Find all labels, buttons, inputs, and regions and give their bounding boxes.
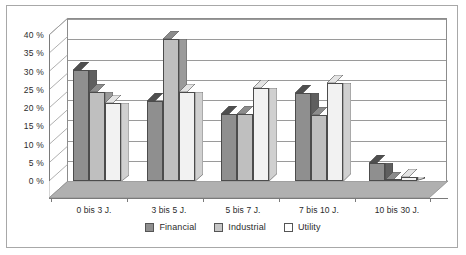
bar-industrial-0 [89,92,105,181]
bar-face [369,163,385,181]
bar-top [311,107,327,115]
tick-connectors [49,18,68,198]
bar-top [163,31,179,39]
bar-top [401,169,417,177]
bar-industrial-3 [311,115,327,181]
bar-top [369,155,385,163]
bar-side [195,92,203,181]
y-tick-label-40: 40 % [24,30,44,40]
bar-face [147,101,163,181]
bar-face [237,114,253,182]
bar-face [179,92,195,181]
bar-financial-4 [369,163,385,181]
bar-face [401,177,417,181]
bar-financial-2 [221,114,237,182]
bar-utility-2 [253,88,269,181]
y-tick-label-20: 20 % [24,103,44,113]
bar-top [73,62,89,70]
bar-face [253,88,269,181]
x-tick-5 [430,198,431,202]
legend-swatch-financial-icon [145,223,154,232]
bar-face [89,92,105,181]
bar-top [295,85,311,93]
x-tick-1 [127,198,128,202]
bar-financial-3 [295,93,311,181]
bar-financial-1 [147,101,163,181]
bar-face [163,39,179,181]
bar-industrial-2 [237,114,253,182]
legend-label-financial: Financial [159,222,196,232]
legend-item-industrial[interactable]: Industrial [214,222,266,232]
x-tick-4 [355,198,356,202]
x-tick-label-0: 0 bis 3 J. [76,205,111,215]
legend-label-utility: Utility [298,222,321,232]
bar-top [253,80,269,88]
bar-face [73,70,89,181]
bar-side [417,177,425,181]
bar-face [221,114,237,182]
legend-swatch-industrial-icon [214,223,223,232]
bar-side [269,88,277,181]
chart-frame: 40 % 35 % 30 % 25 % 20 % 15 % 10 % 5 % 0… [6,5,458,248]
bar-face [385,179,401,181]
y-tick-label-25: 25 % [24,85,44,95]
bar-industrial-1 [163,39,179,181]
chart-legend: Financial Industrial Utility [7,222,459,232]
y-tick-label-35: 35 % [24,48,44,58]
bar-utility-4 [401,177,417,181]
bar-face [295,93,311,181]
y-tick-label-0: 0 % [29,176,44,186]
gridline-40 [68,19,446,20]
y-axis [49,35,50,181]
bar-top [237,106,253,114]
bar-top [89,84,105,92]
x-tick-label-2: 5 bis 7 J. [225,205,260,215]
bar-top [221,106,237,114]
bar-top [147,93,163,101]
bar-face [327,83,343,182]
gridline-35 [68,39,446,40]
y-tick-label-10: 10 % [24,140,44,150]
legend-label-industrial: Industrial [228,222,266,232]
bar-top [179,84,195,92]
x-tick-3 [279,198,280,202]
gridline-30 [68,60,446,61]
bar-side [121,103,129,182]
bar-face [105,103,121,182]
legend-swatch-utility-icon [284,223,293,232]
plot-area: 40 % 35 % 30 % 25 % 20 % 15 % 10 % 5 % 0… [49,18,447,198]
bar-utility-1 [179,92,195,181]
bar-side [343,83,351,182]
bar-face [311,115,327,181]
x-tick-label-3: 7 bis 10 J. [299,205,339,215]
bar-utility-3 [327,83,343,182]
x-tick-0 [51,198,52,202]
bar-financial-0 [73,70,89,181]
legend-item-utility[interactable]: Utility [284,222,321,232]
x-tick-label-4: 10 bis 30 J. [375,205,420,215]
legend-item-financial[interactable]: Financial [145,222,196,232]
bar-utility-0 [105,103,121,182]
bar-top [327,75,343,83]
x-tick-2 [203,198,204,202]
y-tick-label-5: 5 % [29,158,44,168]
x-axis [49,198,448,199]
bar-industrial-4 [385,180,401,181]
y-tick-label-15: 15 % [24,121,44,131]
x-tick-label-1: 3 bis 5 J. [151,205,186,215]
bar-top [105,95,121,103]
y-tick-label-30: 30 % [24,67,44,77]
